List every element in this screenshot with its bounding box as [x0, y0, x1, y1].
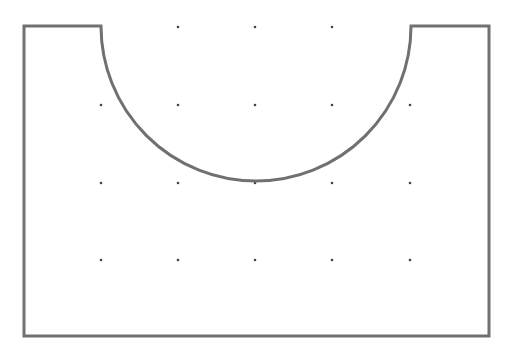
grid-dot	[100, 259, 103, 262]
diagram-canvas	[0, 0, 516, 351]
notched-rectangle-diagram	[0, 0, 516, 351]
grid-dot	[100, 182, 103, 185]
grid-dot	[409, 259, 412, 262]
notched-rectangle-outline	[24, 26, 489, 336]
grid-dot	[177, 26, 180, 29]
grid-dot	[177, 259, 180, 262]
grid-dot	[177, 104, 180, 107]
dot-grid	[100, 26, 412, 262]
grid-dot	[331, 182, 334, 185]
grid-dot	[254, 26, 257, 29]
grid-dot	[254, 259, 257, 262]
grid-dot	[409, 182, 412, 185]
grid-dot	[254, 104, 257, 107]
grid-dot	[409, 104, 412, 107]
grid-dot	[177, 182, 180, 185]
grid-dot	[100, 104, 103, 107]
grid-dot	[331, 26, 334, 29]
grid-dot	[331, 104, 334, 107]
grid-dot	[331, 259, 334, 262]
